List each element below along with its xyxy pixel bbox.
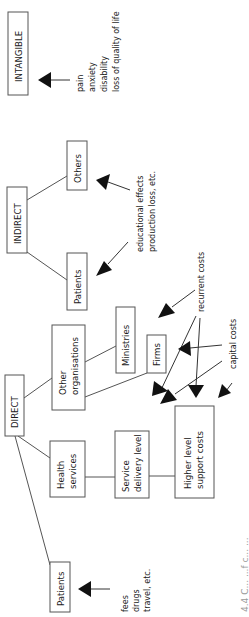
- note-loss-of-quality-of-life: loss of quality of life: [112, 11, 121, 92]
- arrowhead-others-icon: [96, 174, 110, 190]
- note-pain: pain: [76, 75, 85, 92]
- arrow-line-recurrent-1: [172, 290, 195, 307]
- node-service-delivery-level: Service delivery level: [115, 431, 149, 498]
- node-other-organisations: Other organisations: [52, 325, 85, 410]
- node-health-services-line2: services: [68, 453, 78, 489]
- node-other-organisations-line2: organisations: [70, 337, 80, 395]
- note-anxiety: anxiety: [88, 62, 97, 92]
- connector-indirect-patients: [27, 252, 67, 280]
- note-drugs: drugs: [132, 589, 141, 612]
- arrowhead-capital-3-icon: [218, 384, 231, 398]
- node-indirect-label: INDIRECT: [13, 202, 23, 244]
- arrowhead-intangible-icon: [38, 72, 51, 88]
- connector-direct-otherorgs: [24, 378, 52, 398]
- connector-otherorgs-ministries: [85, 346, 116, 362]
- note-production-loss: production loss, etc.: [148, 171, 157, 252]
- node-ministries: Ministries: [116, 307, 135, 373]
- node-health-services-line1: Health: [56, 461, 66, 489]
- indirect-notes: educational effects production loss, etc…: [136, 171, 157, 252]
- node-firms: Firms: [147, 335, 166, 373]
- arrowhead-patients-indirect-icon: [96, 261, 112, 276]
- node-health-services: Health services: [50, 441, 85, 497]
- node-others: Others: [67, 141, 87, 190]
- node-intangible-label: INTANGIBLE: [14, 31, 24, 82]
- node-ministries-label: Ministries: [121, 324, 131, 366]
- intangible-notes: pain anxiety disability loss of quality …: [76, 11, 121, 92]
- arrowhead-patients-direct-icon: [78, 581, 91, 597]
- arrow-line-others: [108, 182, 130, 190]
- node-patients-indirect: Patients: [67, 253, 87, 310]
- connector-otherorgs-firms: [85, 373, 147, 397]
- node-higher-level-line1: Higher level: [183, 437, 193, 489]
- node-indirect: INDIRECT: [7, 187, 27, 253]
- node-intangible: INTANGIBLE: [8, 12, 28, 95]
- connector-indirect-others: [27, 176, 67, 200]
- node-patients-direct: Patients: [50, 562, 70, 612]
- node-others-label: Others: [73, 154, 83, 183]
- connector-direct-patients: [15, 436, 50, 565]
- label-capital-costs: capital costs: [229, 319, 238, 369]
- note-travel: travel, etc.: [143, 569, 152, 612]
- arrow-line-patients-indirect: [108, 242, 128, 264]
- connector-direct-health: [18, 436, 50, 458]
- arrowhead-recurrent-3-icon: [188, 385, 204, 398]
- node-direct-label: DIRECT: [10, 395, 20, 428]
- note-educational-effects: educational effects: [136, 176, 145, 252]
- node-direct: DIRECT: [5, 375, 24, 436]
- arrow-line-capital-1: [190, 345, 222, 348]
- node-firms-label: Firms: [152, 343, 162, 366]
- node-patients-direct-label: Patients: [56, 571, 66, 606]
- arrow-line-recurrent-3: [196, 318, 200, 386]
- node-patients-indirect-label: Patients: [73, 269, 83, 304]
- note-disability: disability: [100, 56, 109, 92]
- arrowhead-recurrent-1-icon: [158, 303, 175, 318]
- arrowhead-capital-1-icon: [178, 341, 191, 356]
- node-higher-level-support-costs: Higher level support costs: [175, 406, 214, 498]
- node-service-delivery-line1: Service: [121, 460, 131, 492]
- cost-classification-diagram: INTANGIBLE INDIRECT Others Patients Othe…: [0, 0, 249, 617]
- note-fees: fees: [121, 595, 130, 612]
- node-service-delivery-line2: delivery level: [133, 434, 143, 492]
- label-recurrent-costs: recurrent costs: [197, 252, 206, 312]
- node-higher-level-line2: support costs: [195, 430, 205, 489]
- node-other-organisations-line1: Other: [58, 370, 68, 395]
- direct-patients-notes: fees drugs travel, etc.: [121, 569, 152, 612]
- figure-caption-clipped: 4.4 C... ...f c... ...: [240, 538, 249, 613]
